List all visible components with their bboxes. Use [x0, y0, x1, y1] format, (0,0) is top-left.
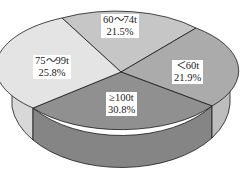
- label-75-99t: 75～99t 25.8%: [33, 55, 71, 79]
- label-75-99t-name: 75～99t: [35, 55, 69, 67]
- label-75-99t-value: 25.8%: [35, 67, 69, 79]
- label-60-74t: 60～74t 21.5%: [101, 14, 139, 38]
- label-ge-100t-value: 30.8%: [108, 104, 135, 116]
- label-lt-60t-name: ＜60t: [174, 60, 201, 72]
- label-60-74t-value: 21.5%: [103, 26, 137, 38]
- label-lt-60t: ＜60t 21.9%: [172, 60, 203, 84]
- label-ge-100t: ≥100t 30.8%: [106, 92, 137, 116]
- label-lt-60t-value: 21.9%: [174, 72, 201, 84]
- label-ge-100t-name: ≥100t: [108, 92, 135, 104]
- label-60-74t-name: 60～74t: [103, 14, 137, 26]
